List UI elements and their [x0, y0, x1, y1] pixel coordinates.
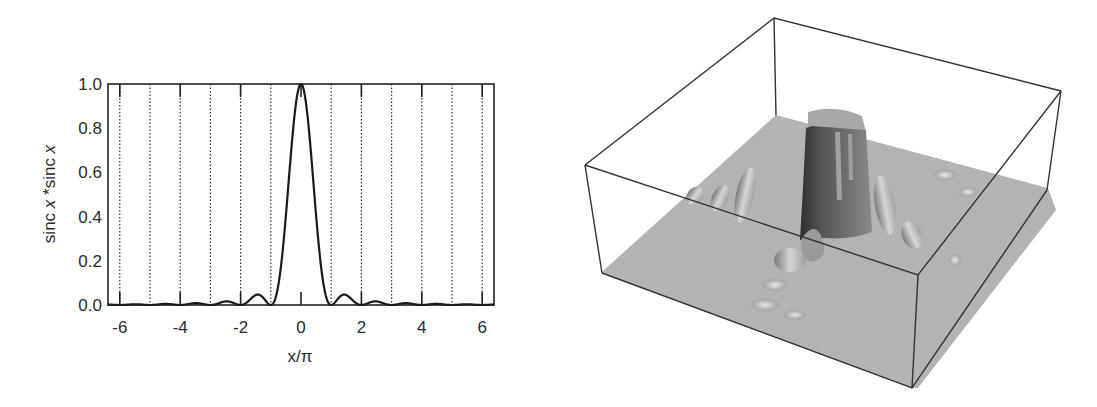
tick-marks	[120, 84, 482, 305]
x-tick-label: -6	[112, 318, 127, 337]
box-left-vertical	[585, 165, 602, 273]
y-tick-label: 0.4	[78, 208, 102, 227]
x-tick-labels: -6-4-20246	[112, 318, 487, 337]
plot-frame	[108, 84, 494, 305]
y-tick-labels: 0.00.20.40.60.81.0	[78, 75, 102, 315]
x-tick-label: -2	[233, 318, 248, 337]
y-tick-label: 0.0	[78, 296, 102, 315]
x-tick-label: 0	[296, 318, 305, 337]
vertical-grid-lines	[120, 84, 482, 305]
y-tick-label: 0.6	[78, 163, 102, 182]
x-tick-label: 4	[417, 318, 426, 337]
x-tick-label: 6	[477, 318, 486, 337]
y-axis-label: sinc x *sinc x	[40, 144, 59, 243]
x-axis-label: x/π	[288, 347, 313, 366]
y-tick-label: 0.2	[78, 252, 102, 271]
figure: 0.00.20.40.60.81.0 -6-4-20246 x/π sinc x…	[0, 0, 1097, 407]
box-back-vertical	[774, 18, 776, 116]
y-tick-label: 1.0	[78, 75, 102, 94]
surface-3d-chart	[585, 18, 1061, 388]
x-tick-label: -4	[173, 318, 188, 337]
sinc-squared-curve	[108, 84, 495, 305]
y-tick-label: 0.8	[78, 119, 102, 138]
x-tick-label: 2	[357, 318, 366, 337]
line-chart: 0.00.20.40.60.81.0 -6-4-20246 x/π sinc x…	[40, 75, 494, 366]
